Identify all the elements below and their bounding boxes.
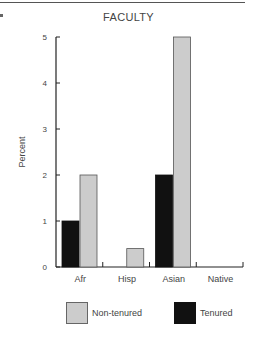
y-tick-label: 0 <box>43 263 48 272</box>
bar-non-tenured <box>174 37 191 267</box>
y-tick-label: 4 <box>43 79 48 88</box>
bar-non-tenured <box>80 175 97 267</box>
legend-item-non-tenured: Non-tenured <box>66 302 142 324</box>
legend-label-non-tenured: Non-tenured <box>92 308 142 318</box>
y-tick-label: 2 <box>43 171 48 180</box>
x-tick-label: Hisp <box>118 274 136 284</box>
legend-swatch-tenured <box>174 302 196 324</box>
legend-item-tenured: Tenured <box>174 302 233 324</box>
x-tick-label: Native <box>208 274 234 284</box>
legend-label-tenured: Tenured <box>200 308 233 318</box>
bar-tenured <box>62 221 79 267</box>
bar-chart: 012345PercentAfrHispAsianNative <box>0 0 257 341</box>
bar-non-tenured <box>127 249 144 267</box>
y-axis-label: Percent <box>17 136 27 168</box>
x-tick-label: Afr <box>75 274 87 284</box>
bar-tenured <box>156 175 173 267</box>
x-tick-label: Asian <box>163 274 186 284</box>
y-tick-label: 5 <box>43 33 48 42</box>
y-tick-label: 1 <box>43 217 48 226</box>
y-tick-label: 3 <box>43 125 48 134</box>
legend-swatch-non-tenured <box>66 302 88 324</box>
